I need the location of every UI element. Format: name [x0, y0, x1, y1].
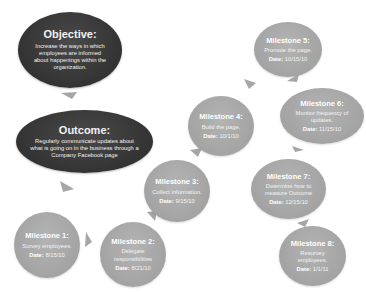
objective-title: Objective: [43, 28, 96, 40]
milestone-3-description: Collect information. [152, 189, 202, 196]
arrow-down-icon [70, 96, 71, 97]
milestone-1: Milestone 1: Survey employees. Date: 8/1… [14, 212, 80, 278]
milestone-4-description: Build the page. [202, 124, 241, 131]
milestone-1-date-row: Date: 8/15/10 [29, 252, 64, 258]
milestone-1-title: Milestone 1: [25, 232, 68, 240]
milestone-8-date: 1/1/11 [313, 266, 329, 272]
milestone-6-title: Milestone 6: [300, 100, 343, 108]
arrow-icon [293, 78, 294, 79]
milestone-3-date-row: Date: 9/15/10 [159, 198, 194, 204]
milestone-2-description: Delegate responsibilities [106, 248, 160, 262]
milestone-8-title: Milestone 8: [291, 240, 334, 248]
milestone-4-title: Milestone 4: [199, 113, 242, 121]
arrow-icon [152, 216, 153, 217]
objective-node: Objective: Increase the ways in which em… [18, 12, 122, 88]
arrow-icon [303, 223, 304, 224]
milestone-5: Milestone 5: Promote the page. Date: 10/… [254, 22, 322, 77]
milestone-1-date: 8/15/10 [45, 252, 64, 258]
arrow-icon [196, 153, 197, 154]
milestone-5-description: Promote the page. [264, 47, 312, 54]
milestone-7-title: Milestone 7: [267, 173, 310, 181]
date-label: Date: [269, 199, 284, 205]
date-label: Date: [29, 252, 44, 258]
date-label: Date: [115, 265, 130, 271]
date-label: Date: [303, 126, 318, 132]
milestone-1-description: Survey employees. [22, 243, 71, 250]
milestone-5-title: Milestone 5: [266, 37, 309, 45]
milestone-2-date-row: Date: 8/21/10 [115, 265, 150, 271]
objective-description: Increase the ways in which employees are… [32, 43, 108, 72]
milestone-3-title: Milestone 3: [155, 178, 198, 186]
milestone-5-date: 10/15/10 [285, 56, 308, 62]
milestone-7-date-row: Date: 12/15/10 [269, 199, 308, 205]
arrow-icon [297, 149, 298, 150]
arrow-icon [250, 83, 251, 84]
arrow-icon [66, 187, 67, 188]
arrow-icon [88, 240, 89, 241]
milestone-5-date-row: Date: 10/15/10 [269, 56, 308, 62]
milestone-7-date: 12/15/10 [285, 199, 308, 205]
outcome-title: Outcome: [59, 124, 110, 136]
milestone-4-date: 10/1/10 [219, 133, 238, 139]
date-label: Date: [297, 266, 312, 272]
outcome-description: Regularly communicate updates about what… [30, 138, 139, 160]
milestone-8-date-row: Date: 1/1/11 [297, 266, 329, 272]
milestone-3: Milestone 3: Collect information. Date: … [144, 160, 210, 222]
date-label: Date: [269, 56, 284, 62]
milestone-6-description: Monitor frequency of updates. [288, 110, 356, 124]
milestone-8-description: Resurvey employees. [285, 250, 340, 264]
milestone-4-date-row: Date: 10/1/10 [203, 133, 238, 139]
milestone-6-date: 11/15/10 [319, 126, 341, 132]
milestone-2: Milestone 2: Delegate responsibilities D… [100, 222, 166, 287]
milestone-8: Milestone 8: Resurvey employees. Date: 1… [279, 226, 346, 286]
milestone-4: Milestone 4: Build the page. Date: 10/1/… [188, 96, 254, 156]
milestone-6: Milestone 6: Monitor frequency of update… [280, 88, 364, 144]
milestone-7: Milestone 7: Determine how to measure Ou… [251, 159, 326, 219]
date-label: Date: [159, 198, 174, 204]
milestone-2-date: 8/21/10 [131, 265, 150, 271]
milestone-6-date-row: Date: 11/15/10 [303, 126, 341, 132]
milestone-2-title: Milestone 2: [111, 238, 154, 246]
milestone-7-description: Determine how to measure Outcome [259, 183, 318, 197]
outcome-node: Outcome: Regularly communicate updates a… [16, 110, 153, 173]
date-label: Date: [203, 133, 218, 139]
milestone-3-date: 9/15/10 [175, 198, 194, 204]
